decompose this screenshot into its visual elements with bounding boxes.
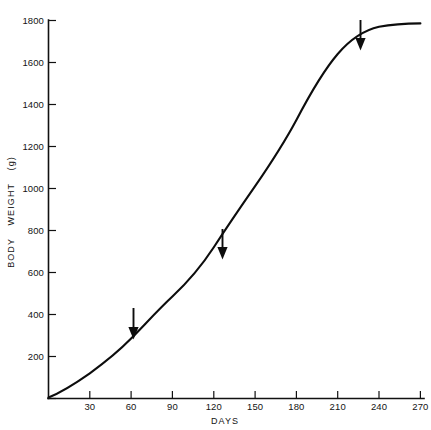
y-axis-title-group: BODY WEIGHT (g) — [6, 156, 16, 268]
y-tick-label-400: 400 — [28, 309, 44, 320]
chart-canvas: 200 400 600 800 1000 1200 1400 1600 1800… — [0, 0, 431, 430]
x-tick-label-120: 120 — [206, 401, 222, 412]
x-tick-label-60: 60 — [126, 401, 137, 412]
y-axis-title-unit: (g) — [6, 156, 16, 170]
svg-text:BODY WEIGHT (g: BODY WEIGHT (g) — [6, 156, 16, 268]
arrow-marker-1 — [128, 308, 138, 340]
y-axis-title-weight: WEIGHT — [6, 183, 16, 225]
y-tick-label-1800: 1800 — [22, 15, 44, 26]
y-tick-label-200: 200 — [28, 351, 44, 362]
arrow-marker-3 — [355, 20, 365, 51]
y-tick-label-1600: 1600 — [22, 57, 44, 68]
x-tick-label-210: 210 — [330, 401, 346, 412]
y-tick-label-800: 800 — [28, 225, 44, 236]
x-tick-label-180: 180 — [288, 401, 304, 412]
arrow-marker-2 — [217, 229, 227, 260]
x-tick-label-90: 90 — [167, 401, 178, 412]
y-tick-label-1400: 1400 — [22, 99, 44, 110]
x-tick-label-270: 270 — [412, 401, 428, 412]
y-axis-title-body: BODY — [6, 238, 16, 268]
body-weight-curve — [49, 23, 421, 397]
x-tick-label-150: 150 — [247, 401, 263, 412]
y-tick-label-600: 600 — [28, 267, 44, 278]
growth-curve-figure: 200 400 600 800 1000 1200 1400 1600 1800… — [0, 0, 431, 430]
x-tick-label-240: 240 — [371, 401, 387, 412]
y-tick-label-1200: 1200 — [22, 141, 44, 152]
x-axis-ticks — [90, 391, 421, 399]
y-tick-label-1000: 1000 — [22, 183, 44, 194]
y-axis-ticks — [49, 21, 57, 399]
x-axis-title: DAYS — [211, 416, 239, 426]
x-tick-label-30: 30 — [84, 401, 95, 412]
